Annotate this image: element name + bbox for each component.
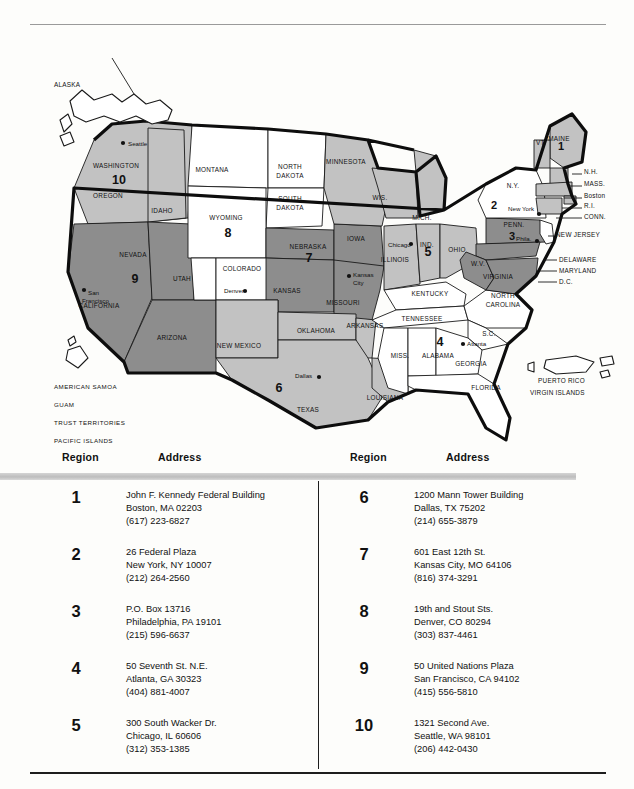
table-column-left: Region Address 1John F. Kennedy Federal … [30,448,318,474]
city-label: Chicago [388,241,411,248]
address-line: Seattle, WA 98101 [414,730,604,743]
row-region-number: 9 [344,659,384,678]
city-marker-dot [82,288,86,292]
address-phone: (816) 374-3291 [414,572,604,585]
address-line: 19th and Stout Sts. [414,603,604,616]
column-header-address: Address [446,451,489,463]
address-line: 50 Seventh St. N.E. [126,660,316,673]
puerto-rico-inset [528,356,614,378]
hawaii-inset [66,336,88,368]
inset-label: VIRGIN ISLANDS [530,389,585,396]
state-label: NEVADA [119,251,147,258]
city-label: San [88,289,100,296]
table-row: 101321 Second Ave.Seattle, WA 98101(206)… [318,716,606,773]
row-address: 1321 Second Ave.Seattle, WA 98101(206) 4… [414,717,604,757]
inset-label: ALASKA [54,81,81,88]
city-label: City [353,279,365,286]
state-label: ARKANSAS [347,322,384,329]
address-line: Kansas City, MO 64106 [414,559,604,572]
state-label: PENN. [504,221,525,228]
region-number-3: 3 [509,230,515,242]
city-marker-dot [461,342,465,346]
callout-label: Boston [584,192,606,199]
state-label: DAKOTA [276,172,304,179]
state-label: UTAH [173,275,191,282]
table-row: 5300 South Wacker Dr.Chicago, IL 60606(3… [30,716,318,773]
row-address: 300 South Wacker Dr.Chicago, IL 60606(31… [126,717,316,757]
state-label: KENTUCKY [412,290,449,297]
state-label: OKLAHOMA [297,327,336,334]
city-label: Denver [224,287,244,294]
address-line: San Francisco, CA 94102 [414,673,604,686]
page-root: WASHINGTONOREGONIDAHOMONTANAWYOMINGNORTH… [0,0,634,789]
row-region-number: 8 [344,602,384,621]
state-label: LOUISIANA [367,394,404,401]
callout-label: DELAWARE [559,256,596,263]
state-label: KANSAS [273,287,300,294]
callout-label: D.C. [559,278,573,285]
callout-label: NEW JERSEY [556,231,601,238]
city-label: New York [508,205,535,212]
region-number-4: 4 [437,335,444,349]
address-phone: (415) 556-5810 [414,686,604,699]
table-header-gray-bar [0,473,576,480]
state-label: TENNESSEE [402,315,443,322]
city-marker-dot [537,212,541,216]
city-label: Phila. [516,235,532,242]
address-phone: (404) 881-4007 [126,686,316,699]
callout-label: MARYLAND [559,267,597,274]
address-phone: (303) 837-4461 [414,629,604,642]
address-line: P.O. Box 13716 [126,603,316,616]
address-line: 1321 Second Ave. [414,717,604,730]
address-line: Boston, MA 02203 [126,502,316,515]
row-address: John F. Kennedy Federal BuildingBoston, … [126,489,316,529]
state-label: FLORIDA [471,384,501,391]
state-label: NORTH [278,163,302,170]
state-label: ILLINOIS [381,256,409,263]
row-region-number: 2 [56,545,96,564]
address-line: Denver, CO 80294 [414,616,604,629]
state-label: W.V. [471,260,485,267]
address-line: Philadelphia, PA 19101 [126,616,316,629]
city-label: Dallas [295,372,312,379]
row-region-number: 1 [56,488,96,507]
table-row: 819th and Stout Sts.Denver, CO 80294(303… [318,602,606,659]
callout-label: MASS. [584,180,605,187]
top-divider-rule [30,24,606,25]
row-address: 50 Seventh St. N.E.Atlanta, GA 30323(404… [126,660,316,700]
address-line: New York, NY 10007 [126,559,316,572]
row-address: 26 Federal PlazaNew York, NY 10007(212) … [126,546,316,586]
state-label: MISSOURI [326,299,360,306]
city-label: Francisco [82,297,109,304]
state-label: S.C. [482,330,495,337]
state-label: MICH. [412,214,431,221]
callout-label: N.H. [584,168,598,175]
row-region-number: 5 [56,716,96,735]
table-row: 61200 Mann Tower BuildingDallas, TX 7520… [318,488,606,545]
state-label: COLORADO [223,265,262,272]
state-label: DAKOTA [276,204,304,211]
city-marker-dot [535,239,539,243]
state-label: NEW MEXICO [217,342,261,349]
row-region-number: 4 [56,659,96,678]
row-address: P.O. Box 13716Philadelphia, PA 19101(215… [126,603,316,643]
map-region-10-shape [74,121,192,224]
region-number-9: 9 [132,272,139,286]
row-region-number: 7 [344,545,384,564]
address-phone: (212) 264-2560 [126,572,316,585]
callout-label: CONN. [584,213,606,220]
territory-label: TRUST TERRITORIES [54,419,125,426]
city-label: Kansas [353,271,374,278]
city-label: Atlanta [467,340,487,347]
region-number-6: 6 [276,381,283,395]
table-rows-left: 1John F. Kennedy Federal BuildingBoston,… [30,488,318,773]
territory-label: AMERICAN SAMOA [54,383,117,390]
city-marker-dot [317,375,321,379]
city-marker-dot [347,274,351,278]
table-rows-right: 61200 Mann Tower BuildingDallas, TX 7520… [318,488,606,773]
state-label: GEORGIA [455,360,487,367]
state-label: IOWA [347,235,365,242]
state-label: ALABAMA [422,352,454,359]
state-label: IDAHO [151,207,173,214]
state-label: NORTH [491,292,515,299]
